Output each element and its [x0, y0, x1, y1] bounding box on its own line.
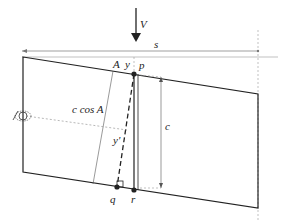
force-label: V — [140, 18, 148, 30]
height-label: c — [165, 120, 170, 132]
offset-inner-label: y' — [112, 134, 121, 146]
span-dimension — [22, 30, 278, 222]
beam-diagram: V s A y p c cos A y' c q r — [0, 0, 286, 222]
point-q — [114, 184, 119, 189]
panel-outline — [23, 57, 258, 208]
point-r-label: r — [131, 193, 136, 205]
point-r — [131, 187, 136, 192]
point-p — [131, 71, 136, 76]
height-dimension — [140, 75, 163, 188]
point-p-label: p — [138, 59, 145, 71]
pivot-icon — [13, 111, 31, 121]
span-label: s — [154, 38, 158, 50]
offset-top-label: y — [124, 58, 130, 70]
projection-label: c cos A — [72, 103, 104, 115]
pq-dashed-line — [117, 74, 134, 187]
angle-label: A — [112, 58, 120, 70]
point-q-label: q — [110, 193, 116, 205]
